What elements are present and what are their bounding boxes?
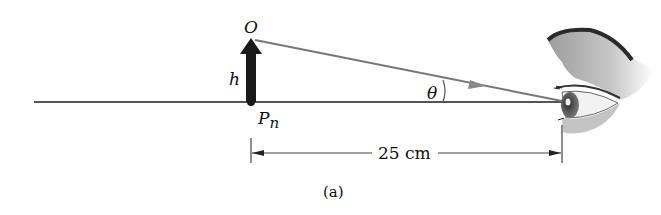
label-height: h — [229, 69, 240, 89]
label-object-point: O — [244, 17, 258, 37]
eye-icon — [548, 30, 655, 134]
dimension-arrow-left-icon — [252, 150, 264, 156]
label-distance: 25 cm — [378, 143, 431, 163]
near-point-diagram: O h Pn θ 25 cm (a) — [0, 0, 661, 215]
caption: (a) — [323, 183, 344, 201]
light-ray — [255, 40, 562, 101]
angle-arc — [443, 80, 445, 102]
label-near-point: Pn — [257, 108, 279, 132]
object-arrow — [240, 38, 262, 106]
dimension-arrow-right-icon — [549, 150, 561, 156]
label-angle: θ — [427, 83, 437, 103]
